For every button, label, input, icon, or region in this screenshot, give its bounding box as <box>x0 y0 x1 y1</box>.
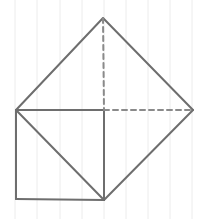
geometry-diagram <box>0 0 207 219</box>
diagram-svg <box>0 0 207 219</box>
edge-bottom_left-bottom_right <box>16 199 104 200</box>
